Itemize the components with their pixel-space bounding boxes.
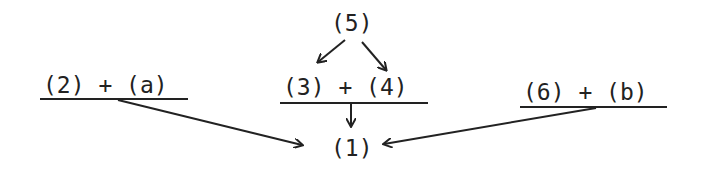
arrow-left-to-1	[118, 100, 302, 145]
node-2-plus-a: (2) + (a)	[43, 74, 168, 97]
arrow-5-to-3	[318, 40, 345, 62]
node-1: (1)	[331, 137, 373, 160]
arrow-right-to-1	[384, 108, 596, 144]
node-6-plus-b: (6) + (b)	[523, 81, 648, 104]
node-3-plus-4: (3) + (4)	[283, 76, 408, 99]
node-5: (5)	[331, 12, 373, 35]
derivation-diagram: (5) (2) + (a) (3) + (4) (6) + (b) (1)	[0, 0, 702, 178]
arrow-5-to-4	[362, 42, 386, 70]
